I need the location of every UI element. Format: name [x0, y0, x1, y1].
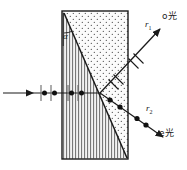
ray-r1-label-sub: 1 — [149, 25, 152, 31]
incident-ray-arrowhead — [26, 89, 34, 96]
e-light-label: e光 — [159, 129, 174, 138]
angle-alpha-label: α — [63, 32, 68, 41]
ray-r2-label-sub: 2 — [150, 109, 153, 115]
ray-r1-label: r1 — [145, 20, 152, 31]
figure-canvas: α r1 o光 r2 e光 — [0, 0, 187, 170]
ray-r2-label: r2 — [146, 104, 153, 115]
optics-diagram-svg — [0, 0, 187, 170]
o-light-label: o光 — [162, 12, 177, 21]
